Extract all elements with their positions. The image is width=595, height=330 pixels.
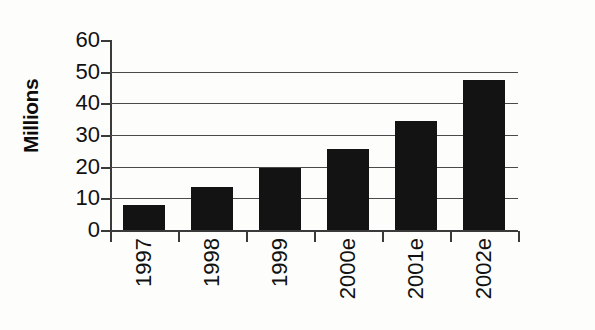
y-axis-tick bbox=[101, 198, 111, 200]
x-axis-tick-label-text: 2002e bbox=[473, 238, 495, 299]
bar bbox=[395, 121, 437, 230]
bar bbox=[259, 168, 301, 230]
y-axis-tick bbox=[101, 72, 111, 74]
y-axis-tick-label: 40 bbox=[48, 92, 100, 114]
bar bbox=[191, 187, 233, 230]
bar bbox=[123, 205, 165, 230]
y-axis-tick-label: 50 bbox=[48, 61, 100, 83]
y-axis-tick-labels: 6050403020100 bbox=[48, 30, 100, 232]
x-axis-tick-label: 1998 bbox=[195, 238, 229, 330]
gridline bbox=[110, 167, 518, 168]
y-axis-tick-label: 30 bbox=[48, 124, 100, 146]
x-axis-tick-label-text: 1997 bbox=[133, 238, 155, 287]
x-axis-tick-label: 1999 bbox=[263, 238, 297, 330]
x-axis-tick-label: 2001e bbox=[399, 238, 433, 330]
y-axis-title: Millions bbox=[19, 51, 43, 181]
x-axis-tick-label: 2002e bbox=[467, 238, 501, 330]
bar bbox=[327, 149, 369, 230]
gridline bbox=[110, 103, 518, 104]
x-axis-tick-label: 2000e bbox=[331, 238, 365, 330]
x-axis-tick-label-text: 1999 bbox=[269, 238, 291, 287]
plot-area bbox=[110, 40, 518, 232]
x-axis-tick-label-text: 2001e bbox=[405, 238, 427, 299]
y-axis-tick-label: 60 bbox=[48, 29, 100, 51]
y-axis-tick-label: 20 bbox=[48, 156, 100, 178]
y-axis-tick bbox=[101, 103, 111, 105]
y-axis-tick bbox=[101, 135, 111, 137]
chart-figure: Millions 6050403020100 1997199819992000e… bbox=[0, 0, 595, 330]
x-axis-tick-label: 1997 bbox=[127, 238, 161, 330]
y-axis-tick bbox=[101, 167, 111, 169]
y-axis-tick-label: 10 bbox=[48, 187, 100, 209]
gridline bbox=[110, 72, 518, 73]
y-axis-tick-label: 0 bbox=[48, 219, 100, 241]
x-axis-tick-labels: 1997199819992000e2001e2002e bbox=[110, 238, 518, 330]
x-axis-tick-label-text: 2000e bbox=[337, 238, 359, 299]
x-axis-tick-label-text: 1998 bbox=[201, 238, 223, 287]
x-axis-tick bbox=[518, 231, 520, 242]
y-axis-tick bbox=[101, 40, 111, 42]
gridline bbox=[110, 198, 518, 199]
bar bbox=[463, 80, 505, 230]
gridline bbox=[110, 135, 518, 136]
